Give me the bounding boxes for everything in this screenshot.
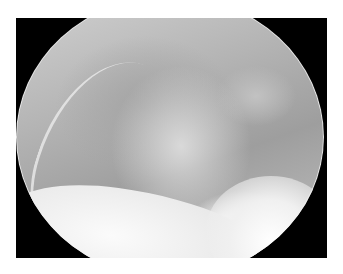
tissue-lower-right [206,176,324,258]
image-frame [16,18,327,258]
caption [20,262,323,270]
endoscopic-view [16,18,324,258]
